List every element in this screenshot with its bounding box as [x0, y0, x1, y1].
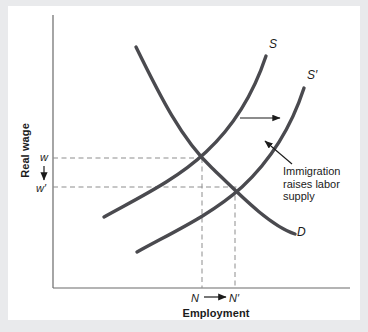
tick-label-employment-initial: N	[191, 293, 199, 304]
annotation-label: Immigration raises labor supply	[283, 165, 365, 203]
curve-label-demand: D	[297, 226, 306, 238]
curve-label-supply-shifted: S′	[307, 69, 317, 81]
figure-container: Real wage Employment w w′ N N′ S S′ D Im…	[0, 0, 368, 332]
tick-label-wage-new: w′	[36, 183, 46, 194]
tick-label-wage-initial: w	[40, 152, 48, 163]
y-axis-title: Real wage	[20, 110, 31, 192]
curve-label-supply: S	[269, 38, 277, 50]
tick-label-employment-new: N′	[229, 293, 239, 304]
x-axis-title: Employment	[166, 308, 266, 319]
